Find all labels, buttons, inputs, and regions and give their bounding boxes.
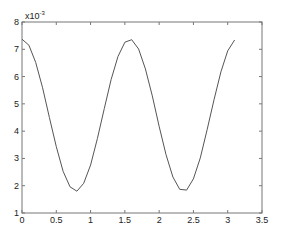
x-tick-label: 2 [157, 215, 162, 225]
x-tick-label: 1 [88, 215, 93, 225]
y-tick-label: 3 [14, 153, 19, 163]
y-tick-label: 1 [14, 208, 19, 218]
x-tick-label: 0 [19, 215, 24, 225]
y-tick-label: 4 [14, 126, 19, 136]
y-tick-label: 5 [14, 99, 19, 109]
x-tick-label: 3.5 [256, 215, 269, 225]
y-tick-label: 6 [14, 72, 19, 82]
x-tick-label: 1.5 [119, 215, 132, 225]
x-tick-label: 3 [225, 215, 230, 225]
line-chart: 00.511.522.533.5 12345678 x10-3 [0, 0, 281, 235]
x-tick-label: 2.5 [187, 215, 200, 225]
y-tick-label: 8 [14, 17, 19, 27]
y-tick-label: 2 [14, 181, 19, 191]
x-tick-label: 0.5 [50, 215, 63, 225]
figure-background [0, 0, 281, 235]
y-tick-label: 7 [14, 44, 19, 54]
